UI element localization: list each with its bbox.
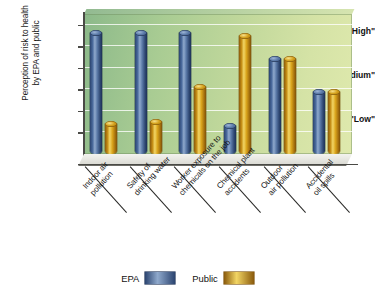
public-color-swatch xyxy=(224,272,254,284)
y-axis-title-line2: by EPA and public xyxy=(31,20,41,85)
bar-epa-2 xyxy=(179,33,191,154)
bar-cap xyxy=(90,30,102,36)
bar-cap xyxy=(224,123,236,129)
bar-epa-5 xyxy=(313,92,325,154)
y-axis-tick xyxy=(78,89,84,90)
legend-label-public: Public xyxy=(192,273,218,284)
legend-item-public: Public xyxy=(192,272,254,284)
bar-epa-0 xyxy=(90,33,102,154)
legend: EPA Public xyxy=(0,272,375,284)
bar-cap xyxy=(328,89,340,95)
bar-public-2 xyxy=(194,87,206,154)
y-axis-title-line1: Perception of risk to health xyxy=(20,5,30,100)
y-axis-tick xyxy=(78,46,84,47)
y-axis-tick xyxy=(78,132,84,133)
gridline xyxy=(84,24,352,25)
bar-cap xyxy=(135,30,147,36)
bar-cap xyxy=(239,33,251,39)
bar-epa-1 xyxy=(135,33,147,154)
y-axis-title: Perception of risk to health by EPA and … xyxy=(0,0,62,128)
epa-color-swatch xyxy=(145,272,175,284)
gridline xyxy=(84,67,352,68)
y-axis-line xyxy=(83,12,85,156)
legend-item-epa: EPA xyxy=(121,272,175,284)
bar-cap xyxy=(269,56,281,62)
bar-cap xyxy=(194,84,206,90)
gridline xyxy=(84,88,352,89)
y-axis-tick xyxy=(78,25,84,26)
bar-public-4 xyxy=(284,59,296,154)
y-axis-tick xyxy=(78,68,84,69)
bar-public-5 xyxy=(328,92,340,154)
bar-chart: Perception of risk to health by EPA and … xyxy=(0,0,375,300)
gridline xyxy=(84,110,352,111)
bar-public-3 xyxy=(239,36,251,154)
bar-cap xyxy=(179,30,191,36)
gridline xyxy=(84,45,352,46)
y-axis-tick xyxy=(78,111,84,112)
legend-label-epa: EPA xyxy=(121,273,139,284)
x-axis-line xyxy=(78,164,358,165)
bar-cap xyxy=(284,56,296,62)
bar-cap xyxy=(313,89,325,95)
bar-public-0 xyxy=(105,124,117,154)
bar-cap xyxy=(150,119,162,125)
bar-epa-4 xyxy=(269,59,281,154)
bar-cap xyxy=(105,121,117,127)
